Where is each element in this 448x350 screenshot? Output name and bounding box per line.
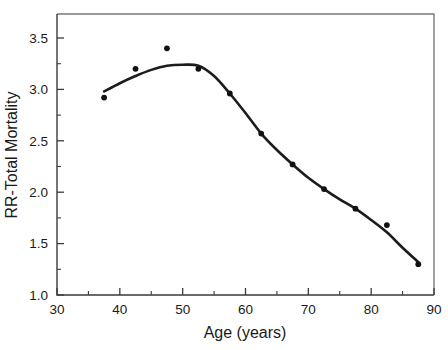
x-tick-label: 40 [112, 302, 127, 317]
data-point [133, 66, 139, 72]
x-axis-title: Age (years) [204, 324, 287, 341]
chart-canvas: 1.01.52.02.53.03.5 30405060708090 Age (y… [0, 0, 448, 350]
figure-background [0, 0, 448, 350]
chart-figure: 1.01.52.02.53.03.5 30405060708090 Age (y… [0, 0, 448, 350]
y-tick-label: 2.0 [29, 185, 48, 200]
data-point [195, 66, 201, 72]
y-tick-label: 1.0 [29, 288, 48, 303]
data-point [290, 162, 296, 168]
data-point [258, 131, 264, 137]
data-point [101, 95, 107, 101]
data-point [164, 45, 170, 51]
y-tick-label: 2.5 [29, 134, 48, 149]
data-point [227, 91, 233, 97]
y-tick-label: 3.0 [29, 82, 48, 97]
y-tick-label: 1.5 [29, 236, 48, 251]
x-tick-label: 30 [49, 302, 64, 317]
data-point [353, 206, 359, 212]
x-tick-label: 70 [301, 302, 316, 317]
y-axis-title: RR-Total Mortality [3, 91, 20, 218]
data-point [321, 186, 327, 192]
x-tick-label: 50 [175, 302, 190, 317]
y-tick-label: 3.5 [29, 31, 48, 46]
data-point [384, 222, 390, 228]
x-tick-label: 80 [364, 302, 379, 317]
x-tick-label: 90 [426, 302, 441, 317]
x-tick-label: 60 [238, 302, 253, 317]
data-point [415, 261, 421, 267]
